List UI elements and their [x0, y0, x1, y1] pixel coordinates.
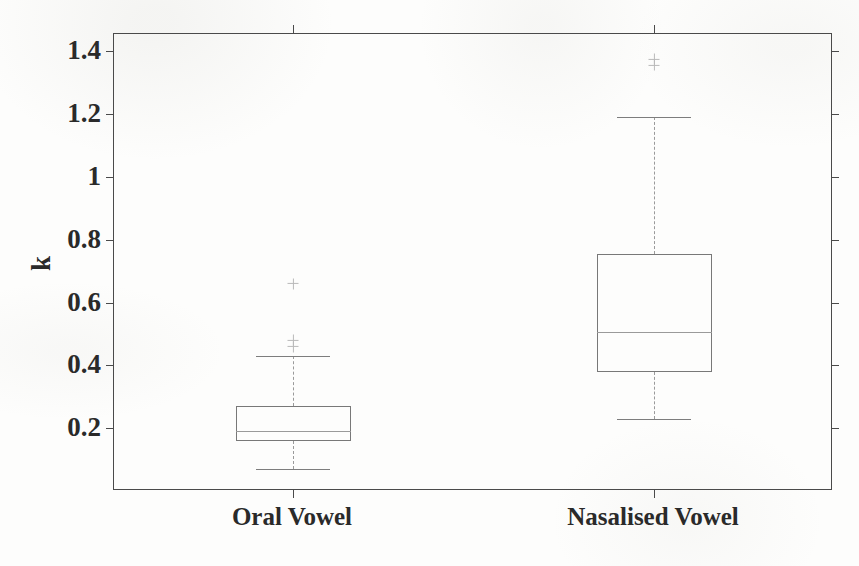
x-axis-tick [293, 489, 294, 498]
x-axis-label-nasalised-vowel: Nasalised Vowel [567, 503, 739, 531]
plot-area [113, 33, 832, 490]
whisker-lower [654, 372, 655, 419]
x-axis-tick-top [654, 25, 655, 34]
y-axis-tick-label: 0.6 [67, 286, 101, 317]
y-axis-tick-right [831, 303, 839, 304]
y-axis-tick-right [831, 51, 839, 52]
whisker-upper [654, 117, 655, 254]
y-axis-tick-label: 1.4 [67, 35, 101, 66]
y-axis-tick [106, 240, 114, 241]
x-axis-tick-top [293, 25, 294, 34]
y-axis-tick-right [831, 177, 839, 178]
y-axis-tick [106, 303, 114, 304]
y-axis-tick [106, 428, 114, 429]
box-iqr [597, 254, 712, 372]
boxplot-figure: k 0.20.40.60.811.21.4 Oral Vowel Nasalis… [0, 0, 859, 566]
whisker-upper [293, 356, 294, 406]
outlier-marker [288, 278, 299, 289]
y-axis-tick-right [831, 365, 839, 366]
y-axis-tick-right [831, 428, 839, 429]
y-axis-tick [106, 51, 114, 52]
y-axis-tick [106, 177, 114, 178]
y-axis-tick-right [831, 114, 839, 115]
whisker-lower [293, 441, 294, 469]
y-axis-tick-label: 0.4 [67, 349, 101, 380]
x-axis-label-oral-vowel: Oral Vowel [232, 503, 352, 531]
outlier-marker [649, 54, 660, 65]
whisker-cap-lower [256, 469, 330, 470]
box-iqr [236, 406, 351, 441]
y-axis-tick [106, 365, 114, 366]
y-axis-tick-label: 1.2 [67, 98, 101, 129]
y-axis-tick-label: 0.2 [67, 412, 101, 443]
y-axis-tick-label: 1 [88, 160, 102, 191]
whisker-cap-lower [617, 419, 691, 420]
median-line [236, 431, 351, 432]
y-axis-tick-labels: 0.20.40.60.811.21.4 [0, 33, 101, 490]
median-line [597, 332, 712, 333]
y-axis-tick-right [831, 240, 839, 241]
outlier-marker [288, 335, 299, 346]
whisker-cap-upper [617, 117, 691, 118]
y-axis-tick [106, 114, 114, 115]
x-axis-tick [654, 489, 655, 498]
y-axis-tick-label: 0.8 [67, 223, 101, 254]
whisker-cap-upper [256, 356, 330, 357]
